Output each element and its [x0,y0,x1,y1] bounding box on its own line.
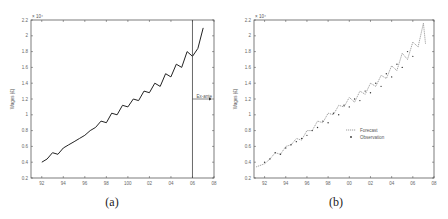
observation-marker [386,73,387,74]
ex-ante-label: Ex-ante [196,94,212,99]
y-tick-label: 0.6 [245,144,252,149]
observation-marker [264,162,265,163]
legend-observation-label: Observation [360,135,385,140]
x-tick-label: 04 [389,181,395,186]
chart-panel-a: 0.20.40.60.811.21.41.61.822.292949698100… [0,0,224,219]
y-tick-label: 0.8 [245,128,252,133]
x-tick-label: 98 [104,181,110,186]
observation-marker [354,98,355,99]
y-tick-label: 2 [248,33,251,38]
y-tick-label: 0.8 [22,128,29,133]
observation-marker [269,158,270,159]
x-tick-label: 06 [410,181,416,186]
observation-marker [317,127,318,128]
legend-observation-swatch [350,136,352,138]
y-tick-label: 1.2 [245,97,252,102]
observation-marker [412,56,413,57]
observation-marker [380,86,381,87]
observation-marker [391,76,392,77]
observation-marker [375,83,376,84]
x-tick-label: 96 [304,181,310,186]
y-tick-label: 2.2 [22,18,29,23]
x-tick-label: 96 [82,181,88,186]
x-tick-label: 92 [262,181,268,186]
y-tick-label: 1.6 [22,65,29,70]
y-tick-label: 2 [25,33,28,38]
x-tick-label: 08 [431,181,437,186]
x-tick-label: 02 [147,181,153,186]
observation-marker [322,120,323,121]
y-tick-label: 1.8 [245,49,252,54]
chart-panel-b: 0.20.40.60.811.21.41.61.822.292949698000… [224,0,448,219]
observation-marker [396,64,397,65]
observation-marker [338,114,339,115]
observation-marker [407,51,408,52]
observation-marker [306,135,307,136]
x-tick-label: 100 [124,181,132,186]
observation-marker [364,90,365,91]
y-tick-label: 1.6 [245,65,252,70]
y-tick-label: 1 [25,112,28,117]
x-tick-label: 94 [61,181,67,186]
y-axis-label: Wages (£) [10,88,15,109]
observation-marker [343,105,344,106]
y-tick-label: 0.4 [245,160,252,165]
observation-marker [280,154,281,155]
y-tick-label: 1.4 [22,81,29,86]
line-chart-b: 0.20.40.60.811.21.41.61.822.292949698000… [224,0,448,190]
x-tick-label: 98 [326,181,332,186]
observation-marker [296,141,297,142]
y-tick-label: 0.4 [22,160,29,165]
y-tick-label: 1 [248,112,251,117]
x-tick-label: 08 [211,181,217,186]
y-multiplier: × 10⁴ [255,14,266,19]
x-tick-label: 00 [347,181,353,186]
caption-b: (b) [224,195,448,210]
observation-marker [274,152,275,153]
observation-marker [359,100,360,101]
x-tick-label: 94 [283,181,289,186]
observation-marker [402,67,403,68]
observation-marker [285,147,286,148]
y-tick-label: 1.4 [245,81,252,86]
observation-marker [349,106,350,107]
observation-marker [301,138,302,139]
y-tick-label: 1.8 [22,49,29,54]
series-line [42,28,203,162]
y-tick-label: 1.2 [22,97,29,102]
x-tick-label: 92 [39,181,45,186]
legend-forecast-label: Forecast [360,128,378,133]
y-tick-label: 2.2 [245,18,252,23]
line-chart-a: 0.20.40.60.811.21.41.61.822.292949698100… [0,0,224,190]
x-tick-label: 04 [168,181,174,186]
y-tick-label: 0.6 [22,144,29,149]
y-tick-label: 0.2 [245,176,252,181]
observation-marker [327,122,328,123]
y-axis-label: Wages (£) [233,88,238,109]
y-multiplier: × 10⁴ [32,14,43,19]
x-tick-label: 06 [190,181,196,186]
caption-a: (a) [0,195,224,210]
observation-marker [370,92,371,93]
series-line [256,23,425,167]
observation-marker [312,130,313,131]
x-tick-label: 02 [368,181,374,186]
observation-marker [290,144,291,145]
y-tick-label: 0.2 [22,176,29,181]
observation-marker [333,113,334,114]
